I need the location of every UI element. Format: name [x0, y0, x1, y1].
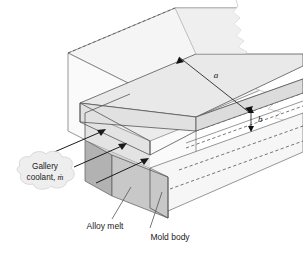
gallery-coolant-line1: Gallery — [32, 162, 59, 171]
dimension-b-label: b — [258, 114, 263, 124]
alloy-melt-label: Alloy melt — [87, 221, 124, 231]
gallery-coolant-callout: Gallery coolant, ṁ — [17, 151, 74, 189]
mass-flow-rate-symbol: ṁ — [58, 173, 64, 182]
mold-gallery-diagram: a b — [0, 0, 303, 259]
figure-root: a b — [0, 0, 303, 259]
mold-body-label: Mold body — [150, 232, 190, 242]
gallery-coolant-text: coolant, — [27, 173, 58, 182]
dimension-a-label: a — [214, 70, 219, 80]
gallery-coolant-line2: coolant, ṁ — [27, 173, 64, 182]
